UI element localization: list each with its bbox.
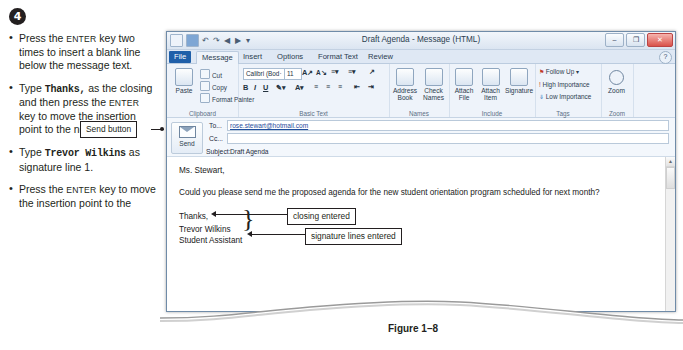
step-number-badge: 4 [9,8,26,25]
close-button[interactable]: ✕ [647,33,673,47]
ribbon-group-zoom: Zoom Zoom [601,64,634,117]
decrease-indent-icon[interactable]: ⇤ [354,83,360,91]
message-body-area[interactable]: Ms. Stewart, Could you please send me th… [167,156,675,311]
check-names-button[interactable]: Check Names [420,68,447,101]
key-name: ENTER [66,185,96,195]
subject-value[interactable]: Draft Agenda [230,147,269,156]
cc-label[interactable]: Cc... [209,135,223,142]
paperclip-icon [455,68,473,86]
high-importance-button[interactable]: ! High Importance [539,81,589,88]
callout-signature-lines-entered: signature lines entered [305,228,402,245]
instruction-text: Type [19,82,45,94]
instruction-text: Type [19,146,45,158]
underline-icon[interactable]: U [263,83,268,92]
tab-review[interactable]: Review [363,51,398,63]
ribbon-group-label-names: Names [389,110,449,117]
body-salutation: Ms. Stewart, [179,165,225,176]
magnifier-icon [609,70,624,85]
body-paragraph: Could you please send me the proposed ag… [179,187,600,198]
address-book-icon [396,68,414,86]
exclamation-icon: ! [539,81,541,88]
ribbon-tab-strip[interactable]: File Message Insert Options Format Text … [167,50,675,64]
callout-send-endpoint [160,127,164,131]
window-controls[interactable]: – ❐ ✕ [605,33,673,47]
message-header: Send To... rose.stewart@hotmail.com Cc..… [167,118,675,159]
key-name: ENTER [66,34,96,44]
ribbon-group-clipboard: Paste Cut Copy Format Painter Clipboard [167,64,239,117]
ribbon: Paste Cut Copy Format Painter Clipboard … [167,64,675,118]
align-right-icon[interactable]: ≡ [338,83,342,90]
font-name-box[interactable]: Calibri (Bod· [243,68,285,80]
clear-formatting-icon[interactable]: ↗ [369,68,375,76]
tab-format-text[interactable]: Format Text [313,51,363,63]
ribbon-group-label-zoom: Zoom [601,110,633,117]
scroll-up-icon[interactable]: ▲ [666,157,675,167]
send-button[interactable]: Send [171,122,203,154]
help-icon[interactable]: ? [659,51,672,64]
callout-closing-arrow [211,211,216,217]
ribbon-group-label-clipboard: Clipboard [167,110,238,117]
paste-button[interactable]: Paste [172,68,196,94]
bullets-icon[interactable]: ≡▾ [331,68,339,76]
tab-message[interactable]: Message [196,51,239,64]
text-highlight-icon[interactable]: ✎▾ [276,83,286,92]
bold-icon[interactable]: B [243,83,248,92]
align-center-icon[interactable]: ≡ [326,83,330,90]
scrollbar-thumb[interactable] [666,167,675,189]
callout-signature-arrow [247,231,252,237]
instruction-bullet-1: Press the ENTER key two times to insert … [8,32,158,73]
figure-caption: Figure 1–8 [388,323,438,334]
zoom-button[interactable]: Zoom [604,70,629,94]
instruction-text: Press the [19,32,66,44]
shrink-font-icon[interactable]: A↘ [316,69,327,77]
to-value: rose.stewart@hotmail.com [230,121,308,130]
attach-item-icon [482,68,500,86]
ribbon-group-basic-text: Calibri (Bod· 11 A↗ A↘ ≡▾ ≡▾ ↗ B I U ✎▾ … [238,64,390,117]
follow-up-button[interactable]: ⚑ Follow Up ▾ [539,68,579,76]
low-importance-button[interactable]: ⇓ Low Importance [539,93,591,101]
down-arrow-icon: ⇓ [539,93,544,100]
attach-file-button[interactable]: Attach File [452,68,476,101]
window-title: Draft Agenda - Message (HTML) [167,35,675,44]
address-book-button[interactable]: Address Book [391,68,419,101]
font-size-box[interactable]: 11 [284,68,302,80]
instruction-bullet-4: Press the ENTER key to move the insertio… [8,183,158,210]
outlook-message-window: ↶ ↷ ◀ ▶ ▾ Draft Agenda - Message (HTML) … [166,31,676,312]
font-color-icon[interactable]: A▾ [295,83,304,92]
maximize-button[interactable]: ❐ [626,33,645,47]
tab-options[interactable]: Options [272,51,308,63]
body-signature-line-1: Trevor Wilkins [179,224,231,235]
callout-signature-leader [252,234,305,235]
signature-button[interactable]: Signature [505,68,532,94]
cc-field[interactable] [227,133,669,144]
tab-insert[interactable]: Insert [238,51,267,63]
ribbon-group-label-include: Include [449,110,535,117]
ribbon-group-label-tags: Tags [535,110,591,117]
instruction-steps: 4 Press the ENTER key two times to inser… [8,8,158,219]
scissors-icon [200,69,210,79]
subject-label: Subject: [206,148,231,155]
ribbon-group-names: Address Book Check Names Names [389,64,450,117]
instruction-text: Press the [19,183,66,195]
instruction-bullet-3: Type Trevor Wilkins as signature line 1. [8,146,158,173]
numbering-icon[interactable]: ≡▾ [348,68,356,76]
ribbon-group-label-basic-text: Basic Text [238,110,389,117]
italic-icon[interactable]: I [254,83,256,92]
body-scrollbar[interactable]: ▲ [665,157,675,311]
ribbon-group-tags: ⚑ Follow Up ▾ ! High Importance ⇓ Low Im… [535,64,602,117]
paintbrush-icon [200,93,210,103]
signature-icon [510,68,528,86]
grow-font-icon[interactable]: A↗ [302,68,313,77]
to-label[interactable]: To... [209,122,222,129]
copy-button[interactable]: Copy [200,81,227,91]
body-closing: Thanks, [179,211,208,222]
copy-icon [200,81,210,91]
body-signature-line-2: Student Assistant [179,235,242,246]
minimize-button[interactable]: – [605,33,624,47]
increase-indent-icon[interactable]: ⇥ [368,83,374,91]
cut-button[interactable]: Cut [200,69,222,79]
callout-closing-entered: closing entered [287,208,356,225]
tab-file[interactable]: File [169,51,191,63]
attach-item-button[interactable]: Attach Item [478,68,503,101]
align-left-icon[interactable]: ≡ [314,83,318,90]
